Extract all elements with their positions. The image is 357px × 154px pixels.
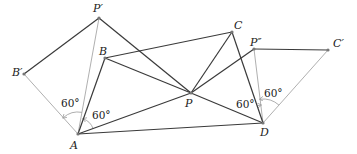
point-P (189, 91, 192, 94)
angle-labels: 60°60°60°60° (61, 87, 283, 121)
geometry-diagram: P′B′BACPP″C′D 60°60°60°60° (0, 0, 357, 154)
segment-Ppp-Cp (254, 49, 328, 50)
diagram-canvas: P′B′BACPP″C′D 60°60°60°60° (0, 0, 357, 154)
point-label-D: D (259, 126, 269, 139)
point-label-Bp: B′ (11, 66, 23, 79)
segment-P-Ppp (191, 49, 254, 93)
segment-C-P (191, 32, 232, 93)
point-Pp (97, 16, 100, 19)
segment-Ppp-D (254, 49, 263, 123)
construction-lines (24, 18, 328, 134)
point-label-Pp: P′ (92, 2, 103, 15)
segment-Bp-Pp (24, 18, 99, 74)
angle-label-A: 60° (92, 109, 111, 121)
point-Bp (22, 72, 25, 75)
point-Cp (326, 48, 329, 51)
angle-arc-A (63, 112, 82, 118)
angle-label-D: 60° (264, 87, 283, 99)
point-label-P: P (184, 97, 193, 110)
vertex-points (22, 16, 329, 135)
segment-B-P (105, 58, 191, 93)
point-label-Ppp: P″ (249, 36, 262, 49)
point-label-A: A (69, 139, 78, 152)
segment-B-A (78, 58, 105, 134)
point-label-Cp: C′ (333, 37, 344, 50)
segment-A-D (78, 123, 263, 134)
point-label-B: B (98, 45, 107, 58)
point-label-C: C (234, 19, 243, 32)
point-D (261, 121, 264, 124)
figure-lines (24, 18, 328, 134)
segment-B-C (105, 32, 232, 58)
segment-Pp-P (99, 18, 191, 93)
point-A (76, 132, 79, 135)
angle-arc-D (260, 99, 279, 105)
vertex-labels: P′B′BACPP″C′D (11, 2, 344, 152)
angle-label-D: 60° (236, 98, 255, 110)
angle-label-A: 60° (61, 97, 80, 109)
